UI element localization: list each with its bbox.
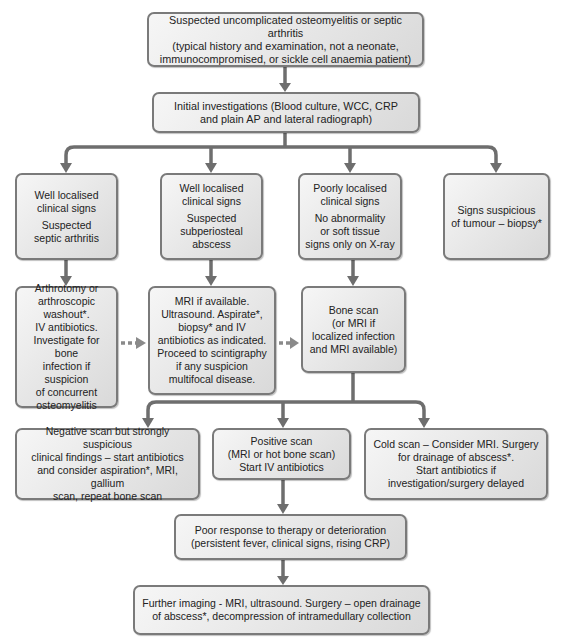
node-text-b: Suspected septic arthritis — [34, 219, 99, 245]
node-suspected-osteomyelitis: Suspected uncomplicated osteomyelitis or… — [147, 12, 424, 67]
node-text: Positive scan (MRI or hot bone scan) Sta… — [228, 435, 335, 474]
node-mri-if-available: MRI if available. Ultrasound. Aspirate*,… — [148, 286, 276, 395]
node-text: Further imaging - MRI, ultrasound. Surge… — [142, 597, 420, 623]
node-poor-response: Poor response to therapy or deterioratio… — [174, 514, 407, 560]
node-text: MRI if available. Ultrasound. Aspirate*,… — [157, 295, 267, 386]
node-bone-scan: Bone scan (or MRI if localized infection… — [301, 286, 406, 373]
node-text: Arthrotomy or arthroscopic washout*. IV … — [21, 282, 112, 412]
node-text-b: Suspected subperiosteal abscess — [180, 212, 242, 251]
node-text-b: No abnormality or soft tissue signs only… — [305, 212, 394, 251]
node-text-a: Poorly localised clinical signs — [313, 182, 387, 208]
arrowheads — [60, 83, 502, 585]
node-poorly-localised-signs: Poorly localised clinical signs No abnor… — [298, 173, 402, 260]
node-cold-scan: Cold scan – Consider MRI. Surgery for dr… — [364, 428, 548, 500]
node-text: Poor response to therapy or deterioratio… — [191, 524, 390, 550]
node-text: Signs suspicious of tumour – biopsy* — [451, 204, 541, 230]
node-negative-scan: Negative scan but strongly suspicious cl… — [15, 428, 200, 500]
node-arthrotomy-washout: Arthrotomy or arthroscopic washout*. IV … — [15, 286, 118, 408]
node-initial-investigations: Initial investigations (Blood culture, W… — [152, 92, 420, 133]
node-text-a: Well localised clinical signs — [35, 189, 99, 215]
node-text: Cold scan – Consider MRI. Surgery for dr… — [373, 438, 538, 490]
node-text: Negative scan but strongly suspicious cl… — [21, 425, 194, 503]
node-text: Suspected uncomplicated osteomyelitis or… — [153, 14, 418, 66]
node-further-imaging: Further imaging - MRI, ultrasound. Surge… — [133, 585, 430, 635]
node-suspected-subperiosteal-abscess: Well localised clinical signs Suspected … — [160, 173, 263, 260]
node-suspected-septic-arthritis: Well localised clinical signs Suspected … — [15, 173, 118, 260]
node-positive-scan: Positive scan (MRI or hot bone scan) Sta… — [212, 428, 351, 480]
node-text: Initial investigations (Blood culture, W… — [174, 100, 398, 126]
node-text: Bone scan (or MRI if localized infection… — [310, 304, 398, 356]
node-suspicious-tumour: Signs suspicious of tumour – biopsy* — [443, 173, 550, 260]
node-text-a: Well localised clinical signs — [180, 182, 244, 208]
